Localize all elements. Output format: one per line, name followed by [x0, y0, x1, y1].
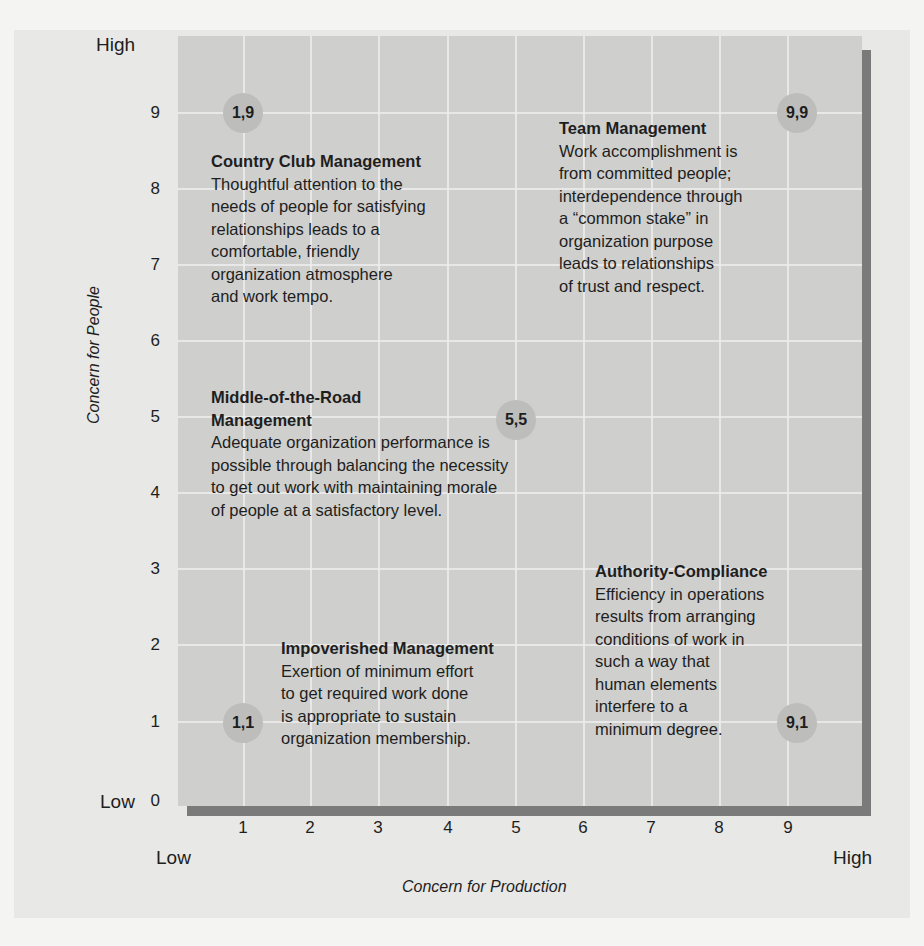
style-description: Work accomplishment is from committed pe… — [559, 140, 742, 298]
style-title: Middle-of-the-Road Management — [211, 386, 508, 431]
y-axis-title: Concern for People — [85, 245, 103, 465]
x-tick-6: 6 — [573, 818, 593, 838]
style-description: Thoughtful attention to the needs of peo… — [211, 173, 426, 308]
x-tick-4: 4 — [438, 818, 458, 838]
y-tick-8: 8 — [140, 179, 160, 199]
point-1-9: 1,9 — [223, 93, 263, 133]
point-1-1: 1,1 — [223, 703, 263, 743]
x-axis-title: Concern for Production — [402, 878, 567, 896]
x-high-label: High — [833, 847, 872, 869]
style-team: Team Management Work accomplishment is f… — [559, 117, 742, 297]
style-authority-compliance: Authority-Compliance Efficiency in opera… — [595, 560, 767, 740]
right-axis-bar — [862, 50, 871, 816]
y-low-label: Low — [100, 791, 135, 813]
y-tick-5: 5 — [140, 407, 160, 427]
point-9-9: 9,9 — [777, 93, 817, 133]
gridline-x9 — [787, 36, 789, 806]
style-middle-of-the-road: Middle-of-the-Road Management Adequate o… — [211, 386, 508, 521]
y-tick-6: 6 — [140, 331, 160, 351]
x-tick-5: 5 — [506, 818, 526, 838]
x-low-label: Low — [156, 847, 191, 869]
y-tick-4: 4 — [140, 483, 160, 503]
x-tick-8: 8 — [709, 818, 729, 838]
style-description: Exertion of minimum effort to get requir… — [281, 660, 494, 750]
style-description: Efficiency in operations results from ar… — [595, 583, 767, 741]
style-title: Country Club Management — [211, 150, 426, 173]
x-tick-7: 7 — [641, 818, 661, 838]
x-tick-3: 3 — [368, 818, 388, 838]
y-tick-7: 7 — [140, 255, 160, 275]
style-impoverished: Impoverished Management Exertion of mini… — [281, 637, 494, 750]
y-tick-3: 3 — [140, 559, 160, 579]
style-country-club: Country Club Management Thoughtful atten… — [211, 150, 426, 308]
gridline-y9 — [178, 112, 862, 114]
x-tick-2: 2 — [300, 818, 320, 838]
x-tick-9: 9 — [778, 818, 798, 838]
style-title: Impoverished Management — [281, 637, 494, 660]
y-tick-9: 9 — [140, 103, 160, 123]
x-tick-1: 1 — [233, 818, 253, 838]
style-title: Team Management — [559, 117, 742, 140]
y-tick-1: 1 — [140, 712, 160, 732]
style-description: Adequate organization performance is pos… — [211, 431, 508, 521]
style-title: Authority-Compliance — [595, 560, 767, 583]
y-tick-0: 0 — [140, 791, 160, 811]
point-9-1: 9,1 — [777, 703, 817, 743]
y-tick-2: 2 — [140, 635, 160, 655]
y-high-label: High — [96, 34, 135, 56]
gridline-y6 — [178, 340, 862, 342]
x-axis-bar — [187, 806, 870, 816]
